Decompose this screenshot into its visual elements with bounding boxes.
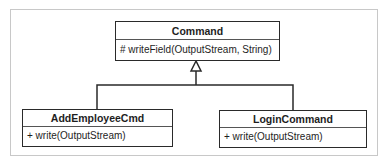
class-name: Command [116,22,279,40]
class-command: Command # writeField(OutputStream, Strin… [115,21,280,61]
class-operation: + write(OutputStream) [23,127,172,145]
class-operation: + write(OutputStream) [220,128,366,146]
class-add-employee-cmd: AddEmployeeCmd + write(OutputStream) [22,109,173,147]
class-operation: # writeField(OutputStream, String) [116,40,279,59]
class-login-command: LoginCommand + write(OutputStream) [219,110,367,148]
hollow-triangle-arrow-icon [191,61,201,71]
class-name: AddEmployeeCmd [23,110,172,127]
class-name: LoginCommand [220,111,366,128]
inheritance-line [97,85,293,110]
